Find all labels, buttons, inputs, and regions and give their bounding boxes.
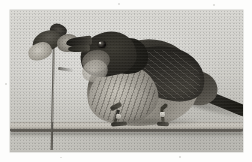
dust-speck — [5, 83, 7, 85]
dust-speck — [60, 157, 62, 158]
dust-speck — [118, 3, 120, 5]
dust-speck — [179, 156, 181, 158]
film-grain — [10, 10, 243, 152]
dust-speck — [213, 4, 215, 6]
photograph — [10, 10, 243, 152]
screenshot-root: A shrike-like passerine bird standing on… — [0, 0, 252, 162]
